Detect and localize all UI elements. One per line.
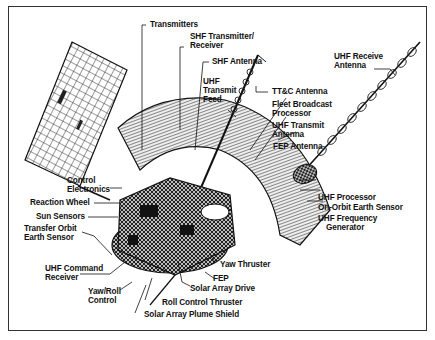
label-shf-antenna: SHF Antenna — [212, 57, 262, 66]
label-uhf-processor: UHF Processor — [318, 193, 376, 202]
label-reaction-wheel: Reaction Wheel — [30, 198, 90, 207]
label-yaw-roll-control: Yaw/RollControl — [88, 287, 121, 305]
label-transmitters: Transmitters — [150, 20, 198, 29]
label-fep-antenna: FEP Antenna — [273, 142, 322, 151]
label-fleet-broadcast-processor: Fleet BroadcastProcessor — [272, 100, 332, 118]
label-shf-transmitter-receiver: SHF Transmitter/Receiver — [190, 32, 254, 50]
label-solar-array-plume-shield: Solar Array Plume Shield — [144, 310, 239, 319]
label-uhf-transmit-feed: UHFTransmitFeed — [203, 77, 236, 104]
label-sun-sensors: Sun Sensors — [36, 212, 85, 221]
label-uhf-transmit-antenna: UHF TransmitAntenna — [272, 121, 324, 139]
label-on-orbit-earth-sensor: On-Orbit Earth Sensor — [318, 203, 403, 212]
label-uhf-command-receiver: UHF CommandReceiver — [45, 264, 103, 282]
label-uhf-receive-antenna: UHF ReceiveAntenna — [334, 52, 383, 70]
label-control-electronics: ControlElectronics — [67, 176, 110, 194]
label-solar-array-drive: Solar Array Drive — [190, 284, 255, 293]
label-uhf-frequency-generator: UHF FrequencyGenerator — [318, 214, 377, 232]
label-roll-control-thruster: Roll Control Thruster — [162, 298, 242, 307]
label-transfer-orbit-earth-sensor: Transfer OrbitEarth Sensor — [24, 224, 77, 242]
label-yaw-thruster: Yaw Thruster — [220, 260, 270, 269]
label-fep: FEP — [213, 274, 229, 283]
label-ttc-antenna: TT&C Antenna — [272, 87, 327, 96]
